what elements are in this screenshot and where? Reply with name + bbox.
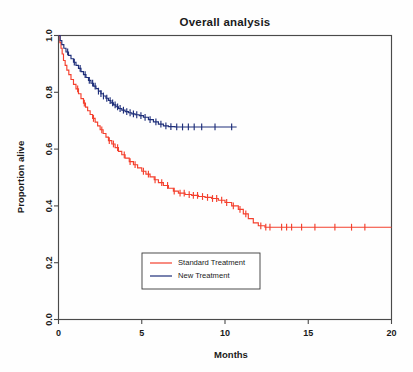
x-tick-label-15: 15 [303,328,313,338]
chart-figure: Overall analysis 0.00.20.40.60.81.0 0510… [0,0,413,372]
y-axis-title: Proportion alive [15,141,26,213]
x-tick-label-0: 0 [56,328,61,338]
x-tick-label-10: 10 [220,328,230,338]
y-tick-label-0.8: 0.8 [44,86,54,99]
figure-background [0,0,413,372]
legend-label-0: Standard Treatment [178,258,246,267]
x-tick-label-5: 5 [139,328,144,338]
y-tick-label-0.2: 0.2 [44,256,54,269]
legend-label-1: New Treatment [178,271,230,280]
chart-title: Overall analysis [180,16,271,28]
chart-legend: Standard TreatmentNew Treatment [142,253,260,289]
x-tick-label-20: 20 [386,328,396,338]
y-tick-label-0.0: 0.0 [44,313,54,326]
y-tick-label-0.6: 0.6 [44,143,54,156]
survival-plot-svg: Overall analysis 0.00.20.40.60.81.0 0510… [0,0,413,372]
y-tick-label-1.0: 1.0 [44,29,54,42]
x-axis-title: Months [214,349,248,360]
y-tick-label-0.4: 0.4 [44,200,54,213]
